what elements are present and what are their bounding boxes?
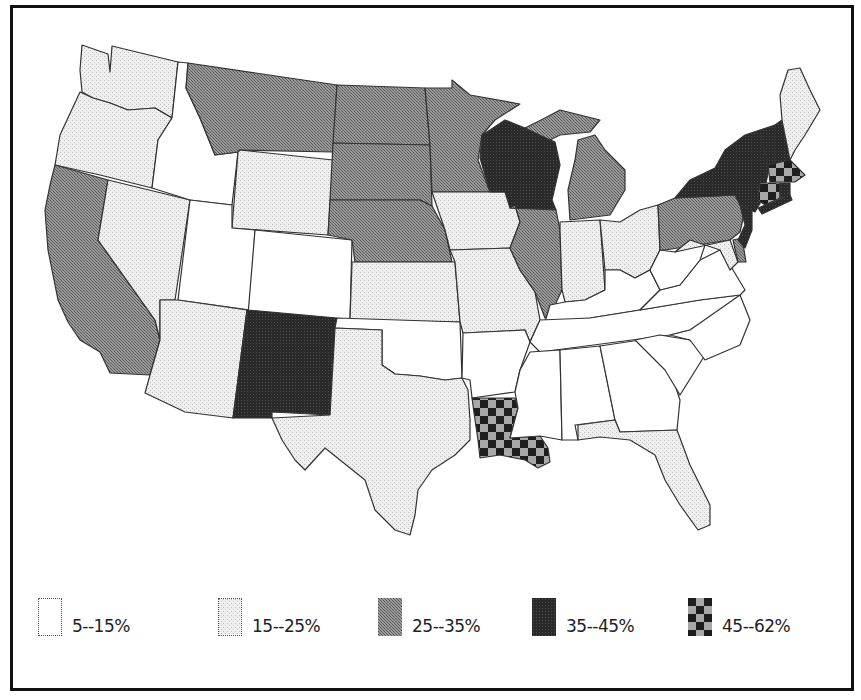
us-choropleth-map: [0, 0, 861, 700]
state-pa: [658, 195, 745, 250]
state-ks: [350, 262, 460, 322]
state-in: [560, 220, 605, 302]
state-fl: [578, 420, 710, 530]
state-nm: [233, 310, 337, 418]
state-co: [248, 230, 352, 320]
state-az: [145, 300, 247, 418]
state-sd: [330, 143, 432, 206]
state-ma: [768, 160, 805, 182]
state-wy: [232, 150, 333, 235]
state-nd: [333, 85, 430, 145]
state-mi: [568, 135, 625, 220]
